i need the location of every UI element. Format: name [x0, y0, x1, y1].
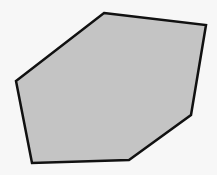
hexagon-shape: [16, 13, 206, 163]
diagram-canvas: [0, 0, 217, 175]
